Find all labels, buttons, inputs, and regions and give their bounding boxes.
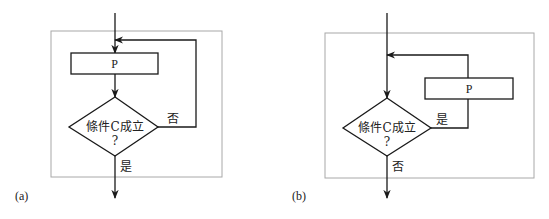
panel-b-exit-branch-label: 否 — [392, 161, 404, 173]
panel-a-exit-branch-label: 是 — [120, 161, 132, 173]
panel-a-diagram — [51, 13, 222, 198]
panel-a-process-label: P — [71, 58, 158, 70]
panel-b-condition-line1: 條件C成立 — [351, 122, 423, 135]
panel-a-condition-line2: ? — [79, 135, 151, 148]
panel-b-process-label: P — [425, 83, 513, 95]
panel-b-loop-back-arrow — [387, 55, 468, 78]
panel-b-loop-branch-label: 是 — [436, 114, 448, 126]
flowchart-canvas — [0, 0, 549, 219]
panel-b-condition-line2: ? — [351, 136, 423, 149]
panel-a-condition-line1: 條件C成立 — [79, 121, 151, 134]
panel-b-caption: (b) — [292, 190, 306, 202]
panel-a-caption: (a) — [15, 190, 28, 202]
panel-b-diagram — [325, 13, 534, 198]
panel-a-loop-branch-label: 否 — [167, 113, 179, 125]
